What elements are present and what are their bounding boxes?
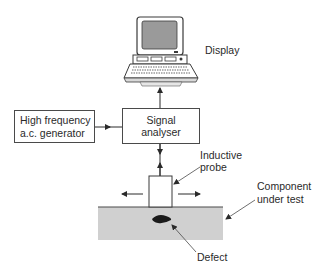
component-label: Component under test xyxy=(257,180,311,206)
generator-box: High frequency a.c. generator xyxy=(14,110,95,143)
signal-analyser-box: Signal analyser xyxy=(122,108,200,144)
component-label-line2: under test xyxy=(257,193,311,206)
defect-label: Defect xyxy=(197,251,227,263)
probe-label-line2: probe xyxy=(200,161,242,173)
component-label-line1: Component xyxy=(257,180,311,193)
probe-label: Inductive probe xyxy=(200,149,242,173)
probe-label-line1: Inductive xyxy=(200,149,242,161)
desktop-computer-icon xyxy=(124,17,198,86)
component-under-test xyxy=(98,207,223,240)
inductive-probe xyxy=(149,176,172,207)
analyser-label-line2: analyser xyxy=(141,126,181,139)
generator-label-line2: a.c. generator xyxy=(20,127,94,140)
generator-label-line1: High frequency xyxy=(20,114,94,127)
probe-leader-line xyxy=(174,167,200,184)
display-label: Display xyxy=(205,44,239,56)
analyser-label-line1: Signal xyxy=(146,114,175,127)
component-leader-line xyxy=(226,200,255,219)
